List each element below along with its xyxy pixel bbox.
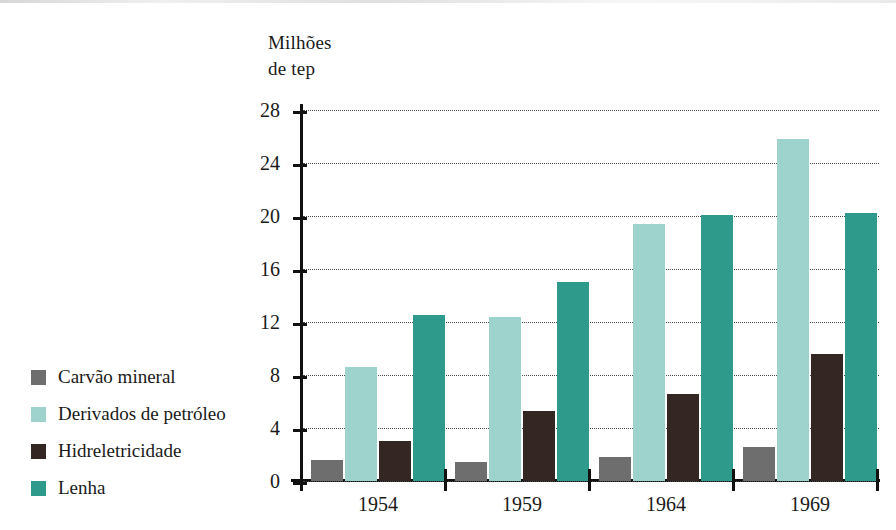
bar: [311, 460, 343, 481]
y-axis-tick: 16: [293, 270, 307, 273]
x-axis-label-1964: 1964: [646, 492, 686, 516]
y-axis-tick-label: 24: [260, 151, 280, 175]
y-axis-tick-label: 20: [260, 204, 280, 228]
plot-area: 0481216202428: [303, 110, 879, 481]
bar: [379, 441, 411, 481]
x-axis-tick: [588, 469, 591, 491]
y-axis-tick-label: 16: [260, 257, 280, 281]
x-axis-label-1969: 1969: [790, 492, 830, 516]
bar: [777, 139, 809, 481]
bar: [811, 354, 843, 481]
y-axis-title: Milhões de tep: [268, 30, 332, 82]
y-axis-tick: 8: [293, 376, 307, 379]
bar-chart: Milhões de tep 0481216202428 19541959196…: [0, 0, 896, 530]
y-axis-tick-label: 28: [260, 98, 280, 122]
x-axis-tick: [444, 469, 447, 491]
bar: [701, 215, 733, 481]
legend-item[interactable]: Hidreletricidade: [31, 437, 226, 465]
bar: [455, 462, 487, 481]
scan-artifact: [0, 0, 896, 3]
y-axis-tick-label: 0: [270, 469, 280, 493]
y-axis-tick: 24: [293, 164, 307, 167]
legend-label: Derivados de petróleo: [58, 403, 226, 425]
legend: Carvão mineralDerivados de petróleoHidre…: [31, 363, 226, 511]
bar: [743, 447, 775, 481]
y-axis-tick: 20: [293, 217, 307, 220]
x-axis-tick: [300, 469, 303, 491]
y-axis-tick: 4: [293, 429, 307, 432]
x-axis-label-1954: 1954: [358, 492, 398, 516]
bar: [667, 394, 699, 481]
bar: [489, 317, 521, 481]
x-axis-tick: [732, 469, 735, 491]
y-axis-tick: 28: [293, 111, 307, 114]
legend-item[interactable]: Lenha: [31, 474, 226, 502]
x-axis-tick: [876, 469, 879, 491]
bar: [523, 411, 555, 481]
legend-swatch-icon: [31, 370, 46, 385]
y-axis-tick: 12: [293, 323, 307, 326]
gridline: 28: [303, 110, 879, 111]
legend-item[interactable]: Derivados de petróleo: [31, 400, 226, 428]
legend-swatch-icon: [31, 407, 46, 422]
bar: [345, 367, 377, 481]
legend-label: Hidreletricidade: [58, 440, 181, 462]
bar: [845, 213, 877, 481]
y-axis-tick-label: 8: [270, 363, 280, 387]
legend-swatch-icon: [31, 444, 46, 459]
bar: [633, 224, 665, 481]
gridline: 0: [303, 481, 879, 482]
y-axis-tick-label: 4: [270, 416, 280, 440]
legend-label: Carvão mineral: [58, 366, 176, 388]
y-axis-tick-label: 12: [260, 310, 280, 334]
legend-label: Lenha: [58, 477, 105, 499]
bar: [413, 315, 445, 481]
bar: [599, 457, 631, 481]
x-axis-label-1959: 1959: [502, 492, 542, 516]
legend-swatch-icon: [31, 481, 46, 496]
bar: [557, 282, 589, 481]
legend-item[interactable]: Carvão mineral: [31, 363, 226, 391]
